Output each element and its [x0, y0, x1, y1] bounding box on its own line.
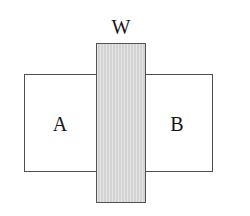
label-w: W	[98, 17, 144, 37]
label-b: B	[155, 114, 199, 134]
diagram-canvas: W A B	[0, 0, 250, 216]
label-a: A	[38, 114, 82, 134]
overlap-bar-w	[96, 43, 146, 203]
